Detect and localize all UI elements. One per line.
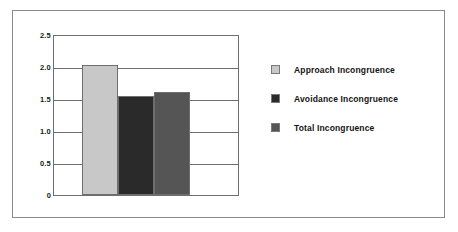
legend-item-approach-incongruence: Approach Incongruence <box>271 55 451 84</box>
figure-frame: 2.5 2.0 1.5 1.0 0.5 0 Approach Incongrue… <box>12 10 445 218</box>
y-tick-label-0: 2.5 <box>13 32 51 40</box>
y-tick-label-2: 1.5 <box>13 96 51 104</box>
y-tick-label-5: 0 <box>13 192 51 200</box>
bar-chart: 2.5 2.0 1.5 1.0 0.5 0 <box>13 11 263 219</box>
bar-approach-incongruence <box>82 65 118 195</box>
legend-swatch-icon-0 <box>271 65 280 74</box>
legend: Approach Incongruence Avoidance Incongru… <box>271 55 451 142</box>
legend-label-total-incongruence: Total Incongruence <box>294 123 374 133</box>
legend-item-total-incongruence: Total Incongruence <box>271 113 451 142</box>
bar-avoidance-incongruence <box>118 96 154 195</box>
bars-layer <box>54 36 238 195</box>
y-tick-label-4: 0.5 <box>13 160 51 168</box>
plot-area <box>53 35 239 196</box>
legend-swatch-icon-2 <box>271 123 280 132</box>
bar-total-incongruence <box>154 92 190 195</box>
y-tick-label-3: 1.0 <box>13 128 51 136</box>
y-tick-label-1: 2.0 <box>13 64 51 72</box>
legend-item-avoidance-incongruence: Avoidance Incongruence <box>271 84 451 113</box>
legend-label-approach-incongruence: Approach Incongruence <box>294 65 395 75</box>
y-axis: 2.5 2.0 1.5 1.0 0.5 0 <box>13 11 51 219</box>
legend-swatch-icon-1 <box>271 94 280 103</box>
legend-label-avoidance-incongruence: Avoidance Incongruence <box>294 94 398 104</box>
